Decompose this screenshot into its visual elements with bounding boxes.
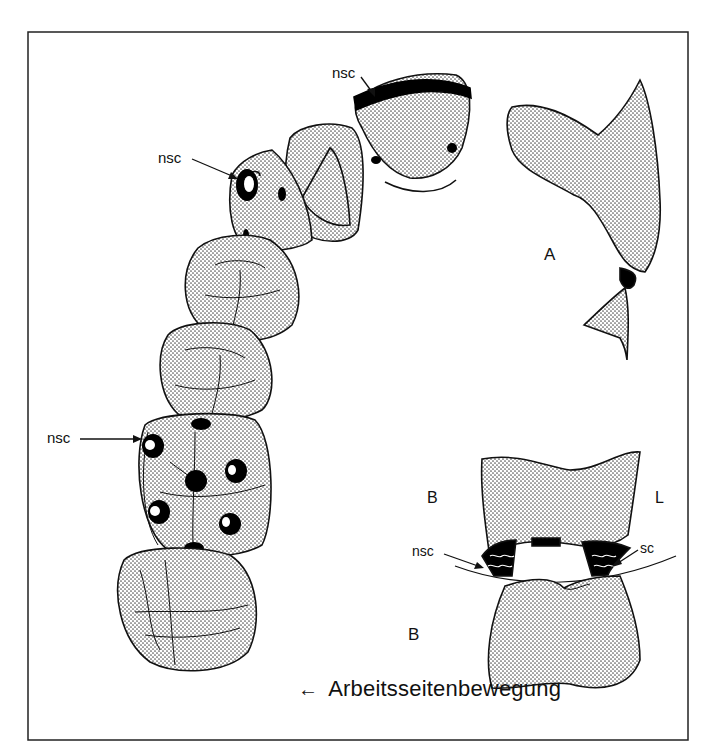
view-a-cross-section: A [507, 80, 660, 360]
caption-text: Arbeitsseitenbewegung [328, 676, 561, 701]
label-nsc-canine: nsc [332, 64, 356, 81]
caption: ←Arbeitsseitenbewegung [298, 676, 561, 702]
label-side-b: B [427, 489, 438, 506]
tooth-molar-2 [160, 323, 272, 421]
contact-dot [371, 156, 381, 164]
label-view-a: A [544, 245, 556, 264]
upper-tooth-a [507, 80, 660, 272]
contact-dot [278, 187, 286, 201]
lower-tooth-b [488, 576, 640, 688]
label-nsc-cross: nsc [412, 543, 434, 559]
contact-point-a [620, 268, 636, 288]
label-side-l: L [655, 489, 664, 506]
label-view-b: B [408, 625, 419, 644]
left-arrow-icon: ← [298, 678, 318, 700]
label-nsc-molar: nsc [47, 429, 71, 446]
lower-tooth-a [584, 288, 628, 360]
contact-dot [447, 143, 457, 153]
view-b-cross-section: B L nsc sc B [408, 452, 676, 688]
contact-dot [191, 418, 211, 430]
contact-center-b [532, 538, 560, 546]
tooth-molar-4 [118, 548, 257, 671]
label-nsc-premolar: nsc [158, 149, 182, 166]
contact-nsc-b [482, 540, 516, 576]
tooth-molar-3 [139, 414, 271, 557]
label-sc-cross: sc [640, 540, 654, 556]
contact-dot [185, 470, 207, 492]
dental-occlusion-diagram: nsc nsc nsc A B L nsc sc B [0, 0, 707, 744]
contact-sc-b [582, 541, 630, 576]
